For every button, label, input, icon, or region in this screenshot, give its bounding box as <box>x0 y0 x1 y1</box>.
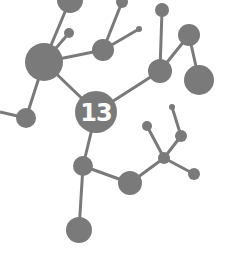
node-P <box>142 121 152 131</box>
node-Q <box>175 130 187 142</box>
network-nodes <box>16 0 214 243</box>
node-A <box>57 0 83 13</box>
node-B <box>116 0 128 8</box>
node-L <box>16 108 36 128</box>
node-H <box>178 24 200 46</box>
node-C <box>155 3 169 17</box>
node-S <box>188 168 200 180</box>
node-T <box>66 217 92 243</box>
node-M <box>73 156 93 176</box>
node-G <box>25 43 63 81</box>
node-E <box>92 39 114 61</box>
node-R <box>169 104 175 110</box>
node-J <box>184 65 214 95</box>
node-O <box>158 152 170 164</box>
molecule-network-diagram: 13 <box>0 0 227 261</box>
node-F <box>136 26 142 32</box>
node-I <box>148 59 172 83</box>
center-node-label: 13 <box>80 99 111 127</box>
node-N <box>118 171 142 195</box>
node-D <box>64 28 74 38</box>
